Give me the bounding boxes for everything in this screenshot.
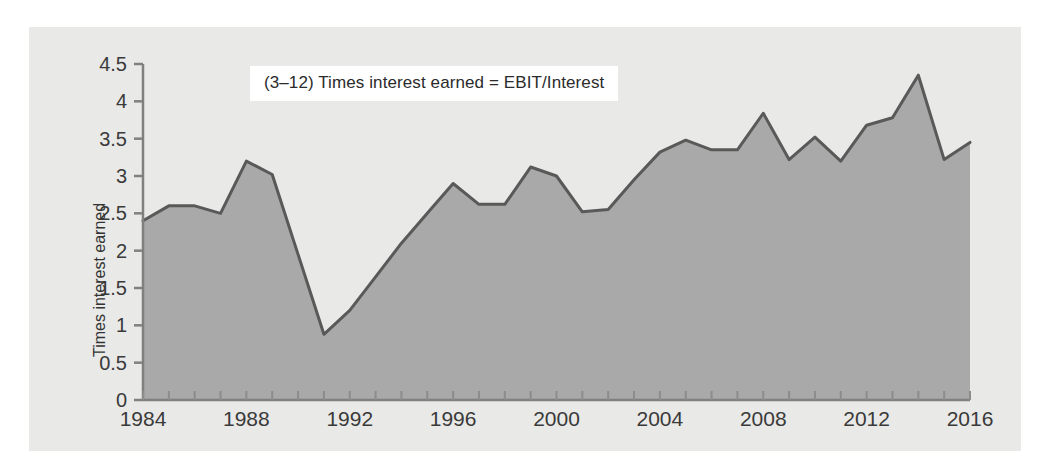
x-axis-tick-label: 2008: [740, 407, 787, 430]
chart-annotation-text: (3–12) Times interest earned = EBIT/Inte…: [264, 73, 604, 92]
x-axis-tick-label: 1988: [223, 407, 270, 430]
x-axis-tick-label: 2004: [637, 407, 684, 430]
chart-figure: 00.511.522.533.544.519841988199219962000…: [0, 0, 1053, 476]
x-axis-tick-label: 1996: [430, 407, 477, 430]
y-axis-label: Times interest earned: [91, 203, 109, 357]
y-axis-tick-label: 3.5: [99, 128, 127, 150]
chart-panel: 00.511.522.533.544.519841988199219962000…: [29, 27, 1021, 451]
y-axis-tick-label: 1: [116, 314, 127, 336]
chart-annotation-box: (3–12) Times interest earned = EBIT/Inte…: [250, 66, 618, 101]
y-axis-tick-label: 4.5: [99, 53, 127, 75]
x-axis-tick-label: 1992: [326, 407, 373, 430]
area-fill: [143, 75, 970, 400]
y-axis-tick-label: 2: [116, 240, 127, 262]
x-axis-tick-label: 2016: [947, 407, 994, 430]
x-axis-tick-label: 1984: [120, 407, 167, 430]
y-axis-tick-label: 4: [116, 90, 127, 112]
x-axis-tick-label: 2012: [843, 407, 890, 430]
y-axis-tick-label: 3: [116, 165, 127, 187]
x-axis-tick-label: 2000: [533, 407, 580, 430]
